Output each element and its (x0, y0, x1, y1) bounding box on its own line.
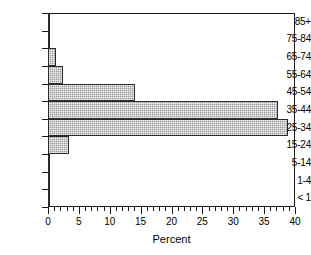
x-axis-tick-major (110, 207, 111, 214)
x-axis-tick-minor (116, 207, 117, 211)
y-axis-label: < 1 (271, 193, 311, 203)
bar-row (48, 48, 295, 66)
bar-4554 (48, 84, 135, 102)
y-axis-tick (42, 172, 49, 173)
bar-row (48, 189, 295, 207)
bar-514 (48, 154, 50, 172)
x-axis-tick-minor (73, 207, 74, 211)
x-axis-tick-minor (196, 207, 197, 211)
bar-3544 (48, 101, 278, 119)
y-axis-label: 45-54 (271, 87, 311, 97)
x-axis-tick-minor (60, 207, 61, 211)
bar-row (48, 172, 295, 190)
x-axis-label: 25 (190, 216, 214, 227)
y-axis-tick (42, 119, 49, 120)
x-axis-tick-minor (97, 207, 98, 211)
x-axis-tick-minor (54, 207, 55, 211)
x-axis-tick-minor (184, 207, 185, 211)
bar-row (48, 13, 295, 31)
y-axis-label: 1-4 (271, 176, 311, 186)
x-axis-tick-minor (85, 207, 86, 211)
x-axis-tick-minor (252, 207, 253, 211)
y-axis-label: 15-24 (271, 140, 311, 150)
x-axis-tick-minor (239, 207, 240, 211)
x-axis-tick-minor (270, 207, 271, 211)
x-axis-tick-minor (178, 207, 179, 211)
bar-row (48, 101, 295, 119)
y-axis-label: 65-74 (271, 52, 311, 62)
bar-row (48, 66, 295, 84)
x-axis-tick-minor (227, 207, 228, 211)
y-axis-label: 55-64 (271, 70, 311, 80)
x-axis-tick-major (79, 207, 80, 214)
y-axis-label: 25-34 (271, 123, 311, 133)
x-axis-tick-major (141, 207, 142, 214)
y-axis-label: 5-14 (271, 158, 311, 168)
x-axis-tick-minor (165, 207, 166, 211)
bar-85 (48, 13, 50, 31)
x-axis-label: 10 (98, 216, 122, 227)
bar-5564 (48, 66, 63, 84)
x-axis-tick-minor (209, 207, 210, 211)
x-axis-label: 0 (36, 216, 60, 227)
x-axis-tick-minor (122, 207, 123, 211)
x-axis-tick-minor (276, 207, 277, 211)
bar-1524 (48, 136, 69, 154)
x-axis-label: 5 (67, 216, 91, 227)
y-axis-tick (42, 31, 49, 32)
bar-1 (48, 189, 50, 207)
x-axis-tick-minor (289, 207, 290, 211)
y-axis-tick (42, 101, 49, 102)
x-axis-tick-major (295, 207, 296, 214)
x-axis-tick-minor (221, 207, 222, 211)
x-axis-tick-minor (258, 207, 259, 211)
x-axis-tick-minor (246, 207, 247, 211)
bar-2534 (48, 119, 288, 137)
bar-6574 (48, 48, 56, 66)
x-axis-label: 30 (221, 216, 245, 227)
x-axis-tick-major (233, 207, 234, 214)
y-axis-tick (42, 154, 49, 155)
bar-7584 (48, 31, 50, 49)
x-axis-tick-minor (91, 207, 92, 211)
y-axis-label: 75-84 (271, 34, 311, 44)
bar-row (48, 154, 295, 172)
x-axis-tick-minor (283, 207, 284, 211)
x-axis-tick-minor (153, 207, 154, 211)
y-axis-tick (42, 13, 49, 14)
x-axis-tick-minor (147, 207, 148, 211)
y-axis-label: 85+ (271, 17, 311, 27)
x-axis-label: 15 (129, 216, 153, 227)
x-axis-tick-major (202, 207, 203, 214)
y-axis-label: 35-44 (271, 105, 311, 115)
x-axis-title: Percent (48, 233, 295, 245)
bar-row (48, 31, 295, 49)
x-axis-label: 35 (252, 216, 276, 227)
x-axis-label: 20 (160, 216, 184, 227)
y-axis-tick (42, 48, 49, 49)
x-axis-tick-major (172, 207, 173, 214)
bar-chart: 85+75-8465-7455-6445-5435-4425-3415-245-… (0, 0, 311, 255)
x-axis-tick-major (264, 207, 265, 214)
bars-layer (48, 13, 295, 207)
x-axis-tick-minor (134, 207, 135, 211)
x-axis-tick-major (48, 207, 49, 214)
y-axis-tick (42, 189, 49, 190)
y-axis-tick (42, 136, 49, 137)
x-axis-tick-minor (159, 207, 160, 211)
bar-row (48, 136, 295, 154)
bar-row (48, 119, 295, 137)
x-axis-tick-minor (104, 207, 105, 211)
x-axis-tick-minor (190, 207, 191, 211)
y-axis-tick (42, 66, 49, 67)
x-axis-tick-minor (215, 207, 216, 211)
bar-14 (48, 172, 50, 190)
x-axis-tick-minor (128, 207, 129, 211)
x-axis-label: 40 (283, 216, 307, 227)
x-axis-tick-minor (67, 207, 68, 211)
bar-row (48, 84, 295, 102)
y-axis-tick (42, 84, 49, 85)
